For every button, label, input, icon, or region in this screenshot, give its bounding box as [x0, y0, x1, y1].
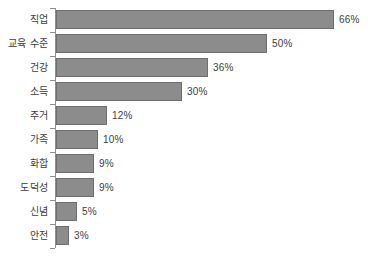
bar: [56, 178, 94, 197]
bar-track: 50%: [56, 32, 368, 56]
bar-track: 66%: [56, 8, 368, 32]
bar-track: 10%: [56, 128, 368, 152]
bar-track: 9%: [56, 152, 368, 176]
bar-track: 36%: [56, 56, 368, 80]
bar-track: 9%: [56, 176, 368, 200]
category-label: 신념: [0, 200, 48, 224]
bar-row: 신념5%: [0, 200, 368, 224]
bar-value-label: 50%: [272, 34, 293, 53]
bar-track: 5%: [56, 200, 368, 224]
bar-value-label: 66%: [339, 10, 360, 29]
category-label: 도덕성: [0, 176, 48, 200]
bar: [56, 106, 107, 125]
bar-chart: 직업66%교육 수준50%건강36%소득30%주거12%가족10%화합9%도덕성…: [0, 0, 368, 262]
bar-row: 안전3%: [0, 224, 368, 248]
bar: [56, 82, 182, 101]
bar-value-label: 9%: [99, 154, 114, 173]
bar-value-label: 36%: [213, 58, 234, 77]
bar-row: 직업66%: [0, 8, 368, 32]
bar-value-label: 5%: [82, 202, 97, 221]
category-label: 가족: [0, 128, 48, 152]
bar-row: 교육 수준50%: [0, 32, 368, 56]
bar: [56, 154, 94, 173]
category-label: 안전: [0, 224, 48, 248]
bar-value-label: 30%: [187, 82, 208, 101]
category-label: 소득: [0, 80, 48, 104]
category-label: 건강: [0, 56, 48, 80]
axis-tick: [50, 248, 55, 249]
bar: [56, 58, 208, 77]
bar-track: 3%: [56, 224, 368, 248]
axis-tick: [50, 104, 55, 105]
axis-tick: [50, 176, 55, 177]
bar-value-label: 12%: [112, 106, 133, 125]
axis-tick: [50, 8, 55, 9]
category-label: 직업: [0, 8, 48, 32]
bar-row: 소득30%: [0, 80, 368, 104]
axis-tick: [50, 80, 55, 81]
bar: [56, 34, 267, 53]
category-label: 주거: [0, 104, 48, 128]
bar-track: 12%: [56, 104, 368, 128]
axis-tick: [50, 200, 55, 201]
bar: [56, 202, 77, 221]
bar: [56, 130, 98, 149]
bar-row: 화합9%: [0, 152, 368, 176]
axis-tick: [50, 128, 55, 129]
bar-track: 30%: [56, 80, 368, 104]
axis-tick: [50, 224, 55, 225]
bar-rows-container: 직업66%교육 수준50%건강36%소득30%주거12%가족10%화합9%도덕성…: [0, 8, 368, 248]
bar-row: 도덕성9%: [0, 176, 368, 200]
axis-tick: [50, 152, 55, 153]
bar-row: 주거12%: [0, 104, 368, 128]
bar-row: 건강36%: [0, 56, 368, 80]
bar: [56, 10, 334, 29]
category-label: 화합: [0, 152, 48, 176]
bar-value-label: 9%: [99, 178, 114, 197]
bar-value-label: 10%: [103, 130, 124, 149]
axis-tick: [50, 32, 55, 33]
bar: [56, 226, 69, 245]
bar-row: 가족10%: [0, 128, 368, 152]
axis-tick: [50, 56, 55, 57]
category-label: 교육 수준: [0, 32, 48, 56]
bar-value-label: 3%: [74, 226, 89, 245]
